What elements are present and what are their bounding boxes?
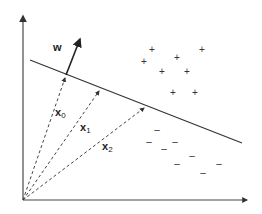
minus-point: – (200, 167, 206, 178)
plus-point: + (192, 87, 198, 98)
weight-vector-arrow (66, 39, 80, 75)
plus-point: + (184, 66, 190, 77)
negative-class-points: – – – – – – – – (146, 124, 222, 178)
decision-boundary (30, 60, 242, 143)
positive-class-points: + + + + + + + + (141, 44, 205, 98)
plus-point: + (174, 52, 180, 63)
plus-point: + (199, 44, 205, 55)
vector-x0 (23, 78, 65, 200)
minus-point: – (174, 158, 180, 169)
vector-x2-label: x2 (102, 140, 113, 154)
plus-point: + (159, 66, 165, 77)
weight-vector-label: w (52, 41, 62, 53)
minus-point: – (216, 158, 222, 169)
minus-point: – (189, 150, 195, 161)
plus-point: + (170, 87, 176, 98)
vector-x0-label: x0 (55, 106, 66, 120)
minus-point: – (146, 136, 152, 147)
diagram-canvas: w x0 x1 x2 + + + + + + + + – – – – – – –… (0, 0, 262, 214)
minus-point: – (154, 124, 160, 135)
data-vectors (23, 78, 144, 200)
vector-x1-label: x1 (80, 121, 91, 135)
minus-point: – (161, 143, 167, 154)
plus-point: + (149, 44, 155, 55)
minus-point: – (172, 136, 178, 147)
plus-point: + (141, 56, 147, 67)
